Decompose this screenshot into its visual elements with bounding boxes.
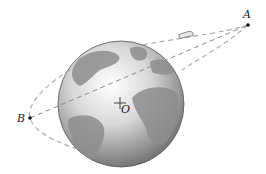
label-o: O: [121, 104, 130, 115]
point-b: [28, 116, 32, 120]
diagram-canvas: [0, 0, 266, 174]
point-a: [246, 23, 250, 27]
spacecraft-icon: [179, 31, 194, 39]
label-b: B: [17, 113, 25, 124]
label-a: A: [243, 9, 251, 20]
orbit-diagram: A B O: [0, 0, 266, 174]
